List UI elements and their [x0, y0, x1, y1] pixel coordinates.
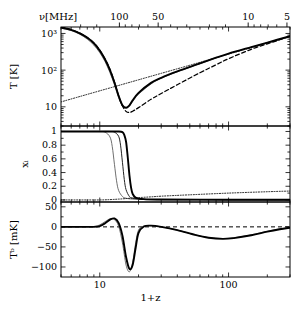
ytick-label: 0.4	[42, 167, 57, 178]
ytick-label-top: 10²	[41, 65, 57, 76]
yaxis-label-top: T [K]	[8, 64, 19, 89]
yaxis-label-bottom: Tᵇ [mK]	[8, 220, 19, 259]
series-x_i-model-A	[61, 131, 290, 199]
series-T_K-model-B	[61, 28, 290, 108]
ytick-label-top: 10³	[41, 28, 57, 39]
figure-container: 10³10²1010.80.60.40.20500−50−10010050105…	[0, 0, 304, 313]
xaxis-label: 1+z	[140, 292, 160, 303]
panel-frame-bottom	[61, 202, 290, 277]
top-axis-tick-label: 5	[284, 11, 290, 22]
top-axis-label: ν[MHz]	[39, 11, 77, 22]
ytick-label: 0.2	[42, 180, 57, 191]
top-axis-tick-label: 10	[242, 11, 254, 22]
series-x_i-model-C	[61, 131, 290, 199]
series-T_K-adiabatic	[61, 27, 290, 113]
xtick-label: 100	[219, 279, 237, 290]
panel-curves-top	[61, 27, 290, 113]
ytick-label: 50	[45, 201, 57, 212]
ytick-label: 0.8	[42, 139, 57, 150]
yaxis-label-middle: xᵢ	[19, 160, 30, 168]
ytick-label: −50	[37, 241, 57, 252]
series-x_i-residual	[61, 191, 290, 200]
panel-frame-top	[61, 27, 290, 126]
ytick-label: 0.6	[42, 153, 57, 164]
panel-curves-bottom	[61, 218, 290, 272]
top-axis-tick-label: 50	[152, 11, 164, 22]
series-Tb-model-B	[61, 218, 290, 269]
panel-curves-middle	[61, 131, 290, 200]
series-x_i-model-B	[61, 131, 290, 199]
ytick-label: −100	[31, 261, 57, 272]
ytick-label: 0	[51, 221, 57, 232]
series-T_K-model-A	[61, 28, 290, 108]
ytick-label-top: 10	[45, 101, 57, 112]
ytick-label: 1	[51, 125, 57, 136]
figure-svg: 10³10²1010.80.60.40.20500−50−10010050105…	[0, 0, 304, 313]
top-axis-tick-label: 100	[110, 11, 128, 22]
panel-frame-middle	[61, 126, 290, 202]
xtick-label: 10	[94, 279, 106, 290]
